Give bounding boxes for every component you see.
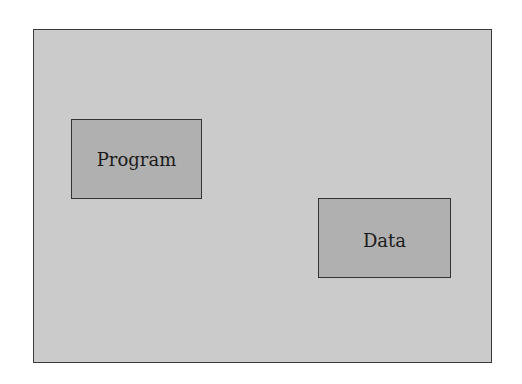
program-label: Program xyxy=(97,149,176,170)
program-box: Program xyxy=(71,119,202,199)
data-box: Data xyxy=(318,198,451,278)
data-label: Data xyxy=(363,230,406,251)
